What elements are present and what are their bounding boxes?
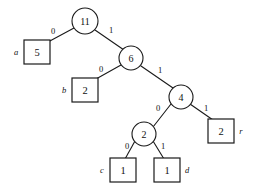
leaf-node-weight: 1: [120, 165, 125, 176]
edge-bit-label: 0: [125, 141, 129, 151]
leaf-symbol-label: a: [14, 47, 18, 57]
nodes-group: 116425a2b2r1c1d: [14, 8, 243, 182]
leaf-node-weight: 2: [82, 85, 87, 96]
tree-edge: [190, 104, 213, 120]
edge-bit-label: 1: [158, 65, 162, 75]
edge-bit-label: 0: [99, 64, 103, 74]
leaf-symbol-label: r: [239, 126, 243, 136]
internal-node-weight: 6: [129, 53, 134, 64]
internal-node-weight: 2: [142, 129, 147, 140]
leaf-node-weight: 5: [34, 47, 39, 58]
leaf-symbol-label: b: [62, 85, 66, 95]
edge-bit-label: 1: [109, 25, 113, 35]
edge-bit-label: 1: [161, 141, 165, 151]
leaf-node-weight: 1: [164, 165, 169, 176]
edge-bit-label: 0: [51, 26, 55, 36]
edge-bit-label: 0: [156, 103, 160, 113]
huffman-tree-figure: 116425a2b2r1c1d 01010101: [0, 0, 254, 193]
leaf-symbol-label: c: [100, 165, 104, 175]
leaf-symbol-label: d: [185, 165, 190, 175]
edge-bit-label: 1: [204, 103, 208, 113]
leaf-node-weight: 2: [218, 126, 223, 137]
tree-canvas: 116425a2b2r1c1d 01010101: [0, 0, 254, 193]
internal-node-weight: 11: [80, 16, 90, 27]
internal-node-weight: 4: [179, 92, 184, 103]
